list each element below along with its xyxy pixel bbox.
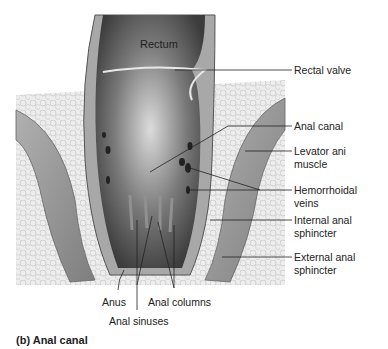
label-internal-sphincter: Internal anal sphincter — [294, 214, 352, 239]
rectal-lumen — [95, 15, 205, 268]
label-rectum: Rectum — [140, 38, 178, 51]
label-rectal-valve: Rectal valve — [294, 64, 351, 77]
label-levator-ani: Levator ani muscle — [294, 145, 346, 170]
label-hemorrhoidal-veins: Hemorrhoidal veins — [294, 184, 357, 209]
label-anal-sinuses: Anal sinuses — [109, 315, 169, 328]
label-external-sphincter: External anal sphincter — [294, 251, 355, 276]
label-anal-canal: Anal canal — [294, 120, 343, 133]
label-anus: Anus — [102, 296, 126, 309]
figure-caption: (b) Anal canal — [16, 334, 88, 346]
label-anal-columns: Anal columns — [148, 296, 211, 309]
